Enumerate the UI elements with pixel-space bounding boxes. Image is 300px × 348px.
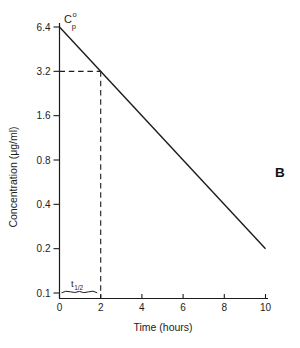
half-life-brace xyxy=(62,291,98,293)
half-life-guide-lines xyxy=(60,71,101,298)
initial-concentration-label: Cop xyxy=(64,10,77,31)
concentration-line xyxy=(60,27,266,249)
y-tick-label: 0.8 xyxy=(37,155,51,166)
y-tick-label: 0.4 xyxy=(37,199,51,210)
y-tick-label: 6.4 xyxy=(37,22,51,33)
x-tick-label: 0 xyxy=(57,302,63,313)
half-life-label: t1/2 xyxy=(71,278,84,291)
pharmacokinetics-figure: 6.43.21.60.80.40.20.1 0246810 Concentrat… xyxy=(0,0,300,348)
x-axis-title: Time (hours) xyxy=(133,321,192,333)
y-tick-label: 0.2 xyxy=(37,243,51,254)
y-tick-label: 3.2 xyxy=(37,66,51,77)
y-axis: 6.43.21.60.80.40.20.1 xyxy=(37,22,60,299)
x-tick-label: 6 xyxy=(180,302,186,313)
y-tick-label: 1.6 xyxy=(37,110,51,121)
x-tick-label: 4 xyxy=(139,302,145,313)
x-tick-label: 2 xyxy=(98,302,104,313)
y-axis-title: Concentration (μg/ml) xyxy=(7,126,19,227)
panel-label: B xyxy=(275,165,285,180)
x-tick-label: 8 xyxy=(222,302,228,313)
series-lines xyxy=(60,27,266,249)
y-tick-label: 0.1 xyxy=(37,288,51,299)
y-axis-ticks: 6.43.21.60.80.40.20.1 xyxy=(37,22,60,299)
initial-concentration-superscript: o xyxy=(72,10,76,19)
concentration-time-chart: 6.43.21.60.80.40.20.1 0246810 Concentrat… xyxy=(0,0,300,348)
x-tick-label: 10 xyxy=(260,302,272,313)
initial-concentration-subscript: p xyxy=(72,22,76,31)
x-axis: 0246810 xyxy=(57,294,272,313)
x-axis-ticks: 0246810 xyxy=(57,294,272,313)
half-life-subscript: 1/2 xyxy=(74,284,83,291)
